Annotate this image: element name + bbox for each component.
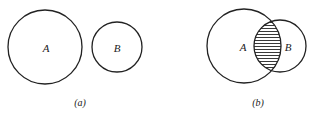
panel-b: A B (b) xyxy=(207,9,306,109)
set-a-label: A xyxy=(42,42,50,54)
venn-diagram-canvas: A B (a) A B (b) xyxy=(0,0,315,116)
set-b-label: B xyxy=(114,42,121,54)
panel-a-caption: (a) xyxy=(74,97,86,109)
set-b-label: B xyxy=(285,41,292,53)
panel-b-caption: (b) xyxy=(252,97,264,109)
panel-a: A B (a) xyxy=(8,10,142,109)
set-a-label: A xyxy=(239,41,247,53)
